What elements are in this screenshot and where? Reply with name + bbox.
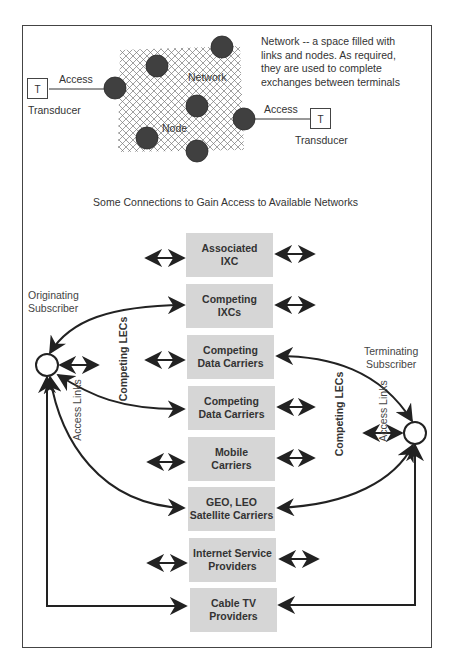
carrier-box-cable-tv: Cable TV Providers: [190, 588, 277, 632]
carrier-box-competing-ixcs: Competing IXCs: [186, 284, 273, 328]
carrier-box-competing-data-2: Competing Data Carriers: [188, 386, 275, 430]
carrier-box-isp: Internet Service Providers: [189, 538, 276, 582]
originating-subscriber-node: [36, 354, 58, 376]
right-access-label: Access: [264, 103, 298, 116]
originating-subscriber-label: Originating Subscriber: [28, 289, 79, 315]
carrier-box-mobile: Mobile Carriers: [188, 437, 275, 481]
carrier-box-associated-ixc: Associated IXC: [186, 233, 273, 277]
right-transducer-label: Transducer: [295, 134, 348, 147]
left-transducer-label: Transducer: [28, 104, 81, 117]
carrier-box-competing-data-1: Competing Data Carriers: [187, 335, 274, 379]
right-access-links-label: Access Links: [377, 380, 389, 441]
left-access-label: Access: [59, 73, 93, 86]
network-label: Network: [188, 71, 227, 83]
left-lec-label: Competing LECs: [117, 311, 129, 407]
right-lec-label: Competing LECs: [333, 366, 345, 462]
left-transducer-box: T: [27, 78, 48, 99]
section-title: Some Connections to Gain Access to Avail…: [0, 196, 451, 208]
network-description: Network -- a space filled with links and…: [261, 35, 400, 89]
left-access-links-label: Access Links: [71, 379, 83, 440]
right-transducer-box: T: [310, 108, 331, 129]
carrier-box-satellite: GEO, LEO Satellite Carriers: [188, 487, 275, 531]
node-label: Node: [162, 122, 187, 134]
terminating-subscriber-node: [404, 422, 426, 444]
terminating-subscriber-label: Terminating Subscriber: [364, 345, 418, 371]
